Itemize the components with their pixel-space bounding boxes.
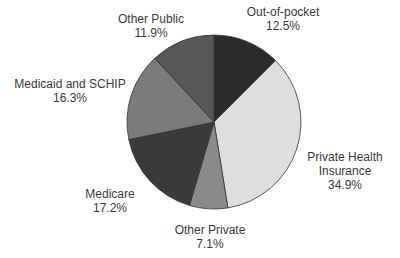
label-value: 34.9% bbox=[307, 178, 382, 192]
label-medicare: Medicare 17.2% bbox=[85, 187, 134, 215]
label-value: 7.1% bbox=[175, 237, 246, 251]
pie-chart bbox=[0, 0, 400, 258]
label-name-line2: Insurance bbox=[307, 164, 382, 178]
label-name: Out-of-pocket bbox=[247, 5, 320, 19]
label-name-line1: Private Health bbox=[307, 150, 382, 164]
label-value: 16.3% bbox=[14, 91, 125, 105]
label-private-health-insurance: Private Health Insurance 34.9% bbox=[307, 150, 382, 192]
label-out-of-pocket: Out-of-pocket 12.5% bbox=[247, 5, 320, 33]
label-other-public: Other Public 11.9% bbox=[118, 12, 184, 40]
label-medicaid-schip: Medicaid and SCHIP 16.3% bbox=[14, 77, 125, 105]
label-name: Medicaid and SCHIP bbox=[14, 77, 125, 91]
label-value: 17.2% bbox=[85, 201, 134, 215]
label-name: Other Private bbox=[175, 223, 246, 237]
label-name: Other Public bbox=[118, 12, 184, 26]
label-value: 12.5% bbox=[247, 19, 320, 33]
label-value: 11.9% bbox=[118, 26, 184, 40]
pie-slices bbox=[127, 35, 301, 209]
label-other-private: Other Private 7.1% bbox=[175, 223, 246, 251]
label-name: Medicare bbox=[85, 187, 134, 201]
